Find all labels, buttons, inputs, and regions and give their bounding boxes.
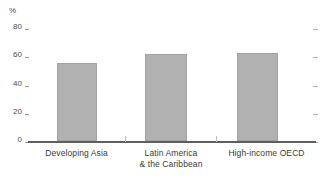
- category-separator-1: [125, 136, 126, 142]
- x-axis-label-latin-america-caribbean: Latin America & the Caribbean: [126, 148, 216, 170]
- y-axis-tick-label-80: 80: [0, 23, 22, 31]
- y-axis-tick-label-40: 40: [0, 80, 22, 88]
- x-axis-line: [28, 141, 316, 143]
- x-axis-label-high-income-oecd: High-income OECD: [217, 148, 316, 159]
- y-axis-tick-label-60: 60: [0, 51, 22, 59]
- bar-developing-asia[interactable]: [57, 63, 97, 141]
- bar-latin-america-caribbean[interactable]: [145, 54, 187, 141]
- plot-area: [28, 0, 315, 142]
- y-axis-tick-label-0: 0: [0, 136, 22, 144]
- category-separator-2: [216, 136, 217, 142]
- y-axis-tick-label-20: 20: [0, 108, 22, 116]
- bar-high-income-oecd[interactable]: [237, 53, 278, 141]
- bar-chart: % 80 60 40 20 0: [0, 0, 322, 178]
- y-axis: 80 60 40 20 0: [0, 0, 28, 178]
- x-axis-label-developing-asia: Developing Asia: [28, 148, 125, 159]
